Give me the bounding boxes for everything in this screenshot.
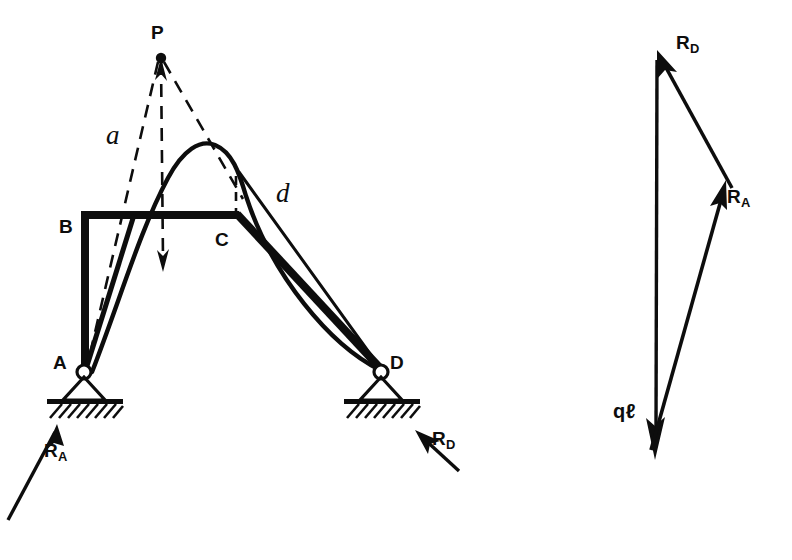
- member-a-strut: [86, 215, 134, 369]
- reaction-label-rd: RD: [432, 428, 455, 452]
- reaction-label-ra-base: R: [44, 440, 58, 461]
- vector-label-rd: RD: [676, 32, 699, 56]
- vector-label-ra: RA: [727, 186, 750, 210]
- vector-shaft-ql: [656, 60, 657, 430]
- reaction-label-ra-subscript: A: [58, 449, 67, 464]
- arrowhead-rd-triangle: [657, 50, 677, 79]
- vector-label-rd-base: R: [676, 32, 690, 53]
- vector-label-ra-base: R: [727, 186, 741, 207]
- vector-label-ql: qℓ: [613, 400, 636, 423]
- force-triangle: [646, 50, 732, 460]
- support-base-d: [344, 399, 420, 404]
- dimension-label-a: a: [106, 120, 120, 151]
- reaction-label-rd-subscript: D: [446, 437, 455, 452]
- reaction-label-rd-base: R: [432, 428, 446, 449]
- node-label-p: P: [151, 22, 164, 44]
- node-label-d: D: [390, 352, 404, 374]
- frame-structure: [8, 53, 459, 520]
- vector-label-ra-subscript: A: [741, 195, 750, 210]
- support-base-a: [47, 399, 123, 404]
- engineering-diagram: [0, 0, 792, 560]
- node-label-a: A: [53, 352, 67, 374]
- vector-ql: [646, 60, 665, 460]
- vector-ra: [651, 180, 727, 450]
- vector-shaft-ra: [651, 200, 721, 450]
- support-d: [344, 365, 420, 418]
- dashed-line-p-vertical: [161, 62, 163, 258]
- dashed-line-p-to-d: [164, 62, 243, 199]
- vector-label-rd-subscript: D: [690, 41, 699, 56]
- vector-shaft-rd: [664, 64, 732, 188]
- vector-rd: [657, 50, 732, 188]
- arrowhead-p-down: [157, 249, 169, 272]
- ground-hatch-a: [50, 404, 123, 418]
- node-label-b: B: [59, 216, 73, 238]
- node-label-c: C: [215, 229, 229, 251]
- ground-hatch-d: [347, 404, 420, 418]
- frame-members: [81, 214, 381, 369]
- point-p-dot: [156, 53, 166, 63]
- reaction-arrow-ra: [8, 424, 64, 520]
- figure-canvas: P B C A D a d RA RD RD RA qℓ: [0, 0, 792, 560]
- member-cd: [237, 214, 381, 369]
- chord-line-d: [239, 172, 381, 369]
- dimension-label-d: d: [276, 178, 290, 209]
- reaction-label-ra: RA: [44, 440, 67, 464]
